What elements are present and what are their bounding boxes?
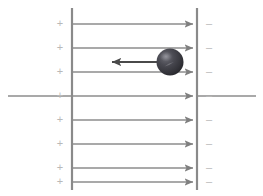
figure-background (0, 0, 263, 196)
minus-sign: – (206, 175, 213, 187)
sphere-highlight (160, 52, 172, 62)
minus-sign: – (206, 65, 213, 77)
minus-sign: – (206, 17, 213, 29)
minus-sign: – (206, 89, 213, 101)
capacitor-field-diagram: + + + + + + + + – – – – – – – – (0, 0, 263, 196)
minus-sign: – (206, 113, 213, 125)
minus-sign: – (206, 41, 213, 53)
plus-sign: + (57, 161, 63, 173)
minus-sign: – (206, 161, 213, 173)
sphere-body (157, 49, 184, 76)
charged-sphere (157, 49, 184, 76)
physics-diagram-figure: + + + + + + + + – – – – – – – – (0, 0, 263, 196)
plus-sign: + (57, 17, 63, 29)
plus-sign: + (57, 137, 63, 149)
plus-sign: + (57, 65, 63, 77)
plus-sign: + (57, 113, 63, 125)
plus-sign: + (57, 41, 63, 53)
plus-sign: + (57, 89, 63, 101)
plus-sign: + (57, 175, 63, 187)
minus-sign: – (206, 137, 213, 149)
